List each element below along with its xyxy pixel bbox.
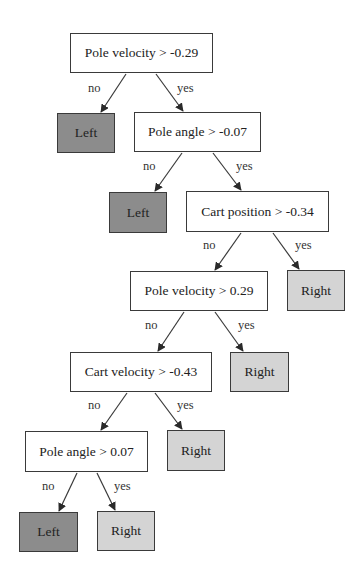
leaf-node-right: Right xyxy=(97,511,155,551)
edge-label-no: no xyxy=(143,160,156,173)
node-label: Pole velocity > -0.29 xyxy=(85,45,198,61)
leaf-node-left: Left xyxy=(109,192,167,233)
leaf-node-left: Left xyxy=(57,113,115,153)
edge-label-no: no xyxy=(42,480,55,493)
decision-node: Pole velocity > -0.29 xyxy=(70,33,213,73)
edge-label-yes: yes xyxy=(238,319,255,332)
edge-label-yes: yes xyxy=(177,82,194,95)
node-label: Left xyxy=(75,125,98,141)
node-label: Right xyxy=(301,283,331,299)
node-label: Cart velocity > -0.43 xyxy=(85,364,198,380)
edge-label-no: no xyxy=(88,82,101,95)
node-label: Pole angle > -0.07 xyxy=(148,124,247,140)
decision-node: Pole angle > -0.07 xyxy=(134,112,261,152)
edge-label-no: no xyxy=(203,239,216,252)
edge-label-yes: yes xyxy=(177,399,194,412)
leaf-node-right: Right xyxy=(287,270,345,311)
edge-label-yes: yes xyxy=(236,160,253,173)
leaf-node-left: Left xyxy=(19,512,78,552)
node-label: Cart position > -0.34 xyxy=(201,204,314,220)
decision-node: Pole velocity > 0.29 xyxy=(130,271,268,311)
decision-node: Cart position > -0.34 xyxy=(186,191,329,232)
edge-label-yes: yes xyxy=(295,239,312,252)
edge-arrow-no xyxy=(101,74,126,112)
decision-node: Pole angle > 0.07 xyxy=(25,431,148,472)
leaf-node-right: Right xyxy=(167,430,225,471)
edge-label-yes: yes xyxy=(114,480,131,493)
node-label: Right xyxy=(244,364,274,380)
node-label: Right xyxy=(111,523,141,539)
node-label: Pole angle > 0.07 xyxy=(39,444,134,460)
edge-arrow-no xyxy=(215,233,241,270)
node-label: Pole velocity > 0.29 xyxy=(145,283,254,299)
node-label: Left xyxy=(127,205,150,221)
leaf-node-right: Right xyxy=(230,352,289,392)
node-label: Right xyxy=(181,443,211,459)
edge-arrow-no xyxy=(59,473,77,511)
edge-arrow-no xyxy=(158,312,184,351)
decision-node: Cart velocity > -0.43 xyxy=(70,352,212,392)
edge-label-no: no xyxy=(88,399,101,412)
edge-arrow-yes xyxy=(97,473,115,510)
edge-label-no: no xyxy=(145,319,158,332)
edge-arrow-no xyxy=(155,153,182,191)
node-label: Left xyxy=(37,524,60,540)
edge-arrow-no xyxy=(101,393,127,430)
decision-tree: noyesnoyesnoyesnoyesnoyesnoyes Pole velo… xyxy=(0,0,364,574)
